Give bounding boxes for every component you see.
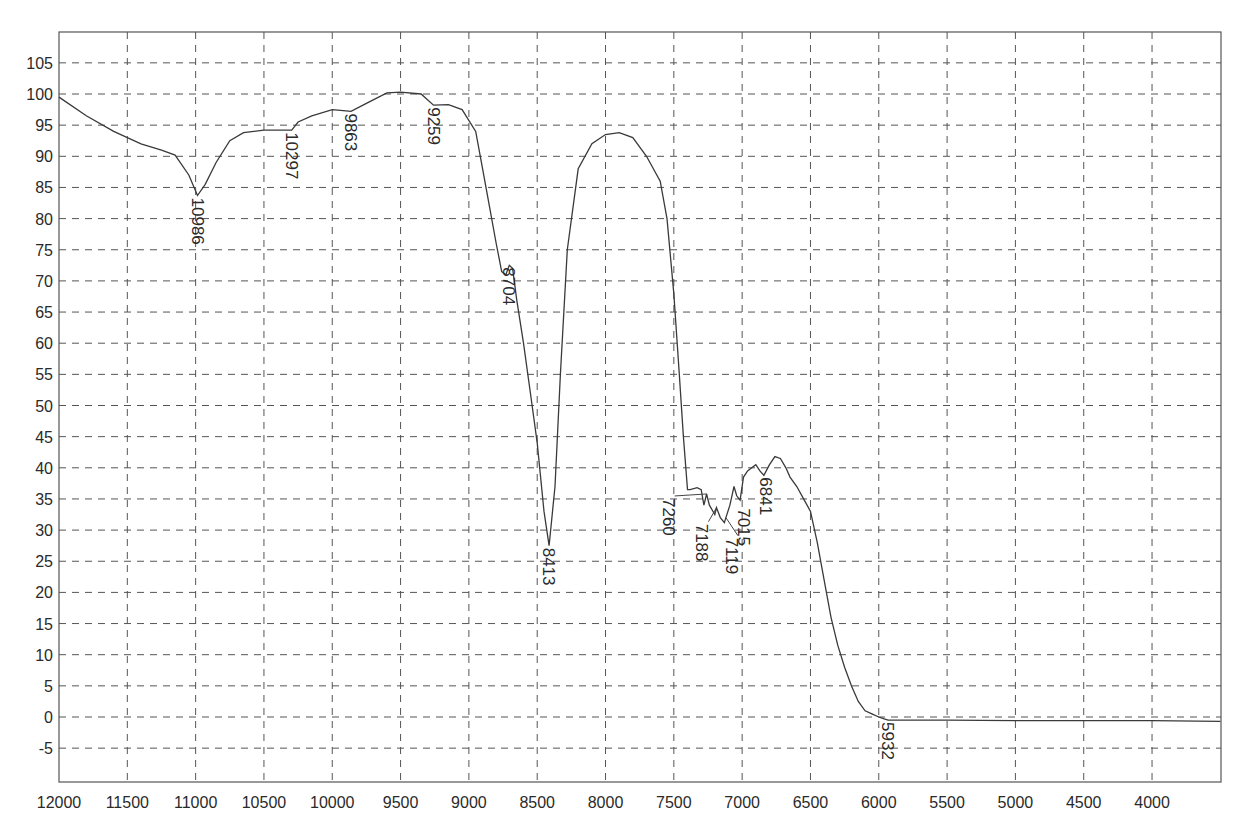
y-tick-label: 50	[35, 398, 53, 415]
x-tick-label: 6000	[861, 794, 897, 811]
y-tick-label: 30	[35, 522, 53, 539]
plot-border	[59, 32, 1221, 782]
x-tick-label: 5000	[998, 794, 1034, 811]
y-axis-ticks: 1051009590858075706560555045403530252015…	[26, 55, 53, 757]
peak-label: 10297	[282, 132, 301, 179]
y-tick-label: 25	[35, 553, 53, 570]
y-tick-label: 105	[26, 55, 53, 72]
peak-label: 10986	[188, 198, 207, 245]
peak-label: 7015	[734, 508, 753, 546]
y-tick-label: 45	[35, 429, 53, 446]
x-tick-label: 10000	[310, 794, 355, 811]
y-tick-label: 15	[35, 616, 53, 633]
y-tick-label: 55	[35, 366, 53, 383]
y-tick-label: 70	[35, 273, 53, 290]
peak-label: 8413	[539, 548, 558, 586]
x-tick-label: 10500	[242, 794, 287, 811]
y-tick-label: 40	[35, 460, 53, 477]
y-tick-label: 0	[44, 709, 53, 726]
peak-label: 8704	[499, 267, 518, 305]
x-tick-label: 9500	[383, 794, 419, 811]
y-tick-label: 85	[35, 179, 53, 196]
y-tick-label: 5	[44, 678, 53, 695]
x-tick-label: 12000	[37, 794, 82, 811]
y-tick-label: 35	[35, 491, 53, 508]
x-axis-ticks: 1200011500110001050010000950090008500800…	[37, 794, 1170, 811]
y-tick-label: 60	[35, 335, 53, 352]
x-tick-label: 11500	[106, 794, 149, 811]
spectrum-curve	[59, 92, 1220, 721]
y-tick-label: 10	[35, 647, 53, 664]
y-tick-label: 20	[35, 584, 53, 601]
x-tick-label: 6500	[793, 794, 829, 811]
y-tick-label: 95	[35, 117, 53, 134]
peak-label: 9259	[424, 107, 443, 145]
peak-label: 6841	[756, 477, 775, 515]
grid-lines	[59, 32, 1221, 782]
y-tick-label: 75	[35, 242, 53, 259]
y-tick-label: 80	[35, 211, 53, 228]
x-tick-label: 4000	[1134, 794, 1170, 811]
spectrum-chart: 1051009590858075706560555045403530252015…	[0, 0, 1253, 840]
x-tick-label: 11000	[174, 794, 217, 811]
x-tick-label: 9000	[451, 794, 487, 811]
y-tick-label: 90	[35, 148, 53, 165]
x-tick-label: 8000	[588, 794, 624, 811]
peak-label: 7188	[692, 524, 711, 562]
y-tick-label: 100	[26, 86, 53, 103]
series-line	[59, 92, 1220, 721]
plot-frame	[59, 32, 1221, 782]
x-tick-label: 7000	[724, 794, 760, 811]
peak-label: 9863	[341, 113, 360, 151]
x-tick-label: 4500	[1066, 794, 1102, 811]
x-tick-label: 8500	[519, 794, 555, 811]
x-tick-label: 5500	[929, 794, 965, 811]
y-tick-label: 65	[35, 304, 53, 321]
x-tick-label: 7500	[656, 794, 692, 811]
y-tick-label: -5	[39, 740, 53, 757]
peak-annotations: 1098610297986392598704841372607188711970…	[188, 107, 898, 760]
peak-label: 7260	[659, 498, 678, 536]
peak-label: 5932	[878, 722, 897, 760]
